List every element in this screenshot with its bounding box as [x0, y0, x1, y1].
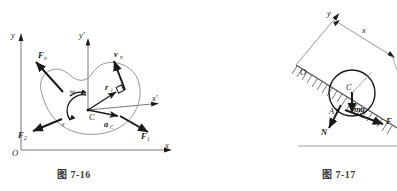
- force-n-arrow: [36, 62, 63, 92]
- incline-y-axis: [296, 13, 340, 65]
- svg-text:F: F: [37, 50, 44, 60]
- label-global-y: y: [10, 30, 15, 40]
- force-2-arrow: [33, 119, 62, 131]
- svg-text:2: 2: [24, 135, 27, 141]
- svg-text:F: F: [17, 130, 24, 140]
- label-weight: mg: [354, 104, 366, 114]
- figure-7-17-group: y x O C A mg N F: [292, 8, 397, 146]
- label-accel-center: a C: [104, 119, 114, 130]
- x-axis-tick: [392, 56, 397, 70]
- svg-text:n: n: [120, 54, 123, 60]
- rigid-body-outline: [41, 62, 141, 134]
- label-force-2: F 2: [17, 130, 27, 141]
- figure-7-16-group: y x O y' x' C ω ε r i a C v n F n: [10, 30, 172, 158]
- label-local-x: x': [151, 93, 158, 103]
- label-omega: ω: [70, 87, 75, 95]
- disc-radius-line: [352, 72, 372, 93]
- label-normal-force: N: [320, 127, 328, 137]
- hatching: [292, 66, 392, 134]
- label-incline-origin: O: [300, 67, 306, 77]
- svg-text:F: F: [140, 131, 147, 141]
- figure-sheet: y x O y' x' C ω ε r i a C v n F n: [0, 0, 397, 191]
- label-radius-vector: r i: [105, 82, 113, 93]
- caption-figure-7-17: 图 7-17: [322, 166, 356, 181]
- label-force-n: F n: [37, 50, 47, 61]
- svg-text:i: i: [111, 87, 113, 93]
- label-mass-center: C: [89, 112, 95, 122]
- caption-figure-7-16: 图 7-16: [57, 166, 91, 181]
- svg-text:v: v: [114, 49, 118, 59]
- svg-text:n: n: [44, 55, 47, 61]
- label-friction-force: F: [385, 116, 392, 126]
- label-global-x: x: [164, 140, 169, 150]
- svg-text:r: r: [105, 82, 109, 92]
- label-local-y: y': [78, 30, 85, 40]
- figures-canvas: y x O y' x' C ω ε r i a C v n F n: [0, 0, 397, 191]
- angular-acceleration-arc: [67, 95, 86, 121]
- label-global-origin: O: [12, 148, 18, 158]
- svg-text:a: a: [104, 119, 109, 129]
- local-y-axis: [86, 38, 91, 110]
- label-epsilon: ε: [62, 120, 65, 128]
- label-disc-center: C: [346, 82, 352, 92]
- label-force-1: F 1: [140, 131, 150, 142]
- label-incline-y: y: [326, 8, 331, 18]
- global-x-axis: [21, 148, 172, 153]
- label-incline-x: x: [361, 25, 366, 35]
- svg-text:C: C: [110, 124, 114, 130]
- label-velocity: v n: [114, 49, 123, 60]
- label-contact-point: A: [328, 106, 335, 116]
- svg-text:1: 1: [147, 136, 150, 142]
